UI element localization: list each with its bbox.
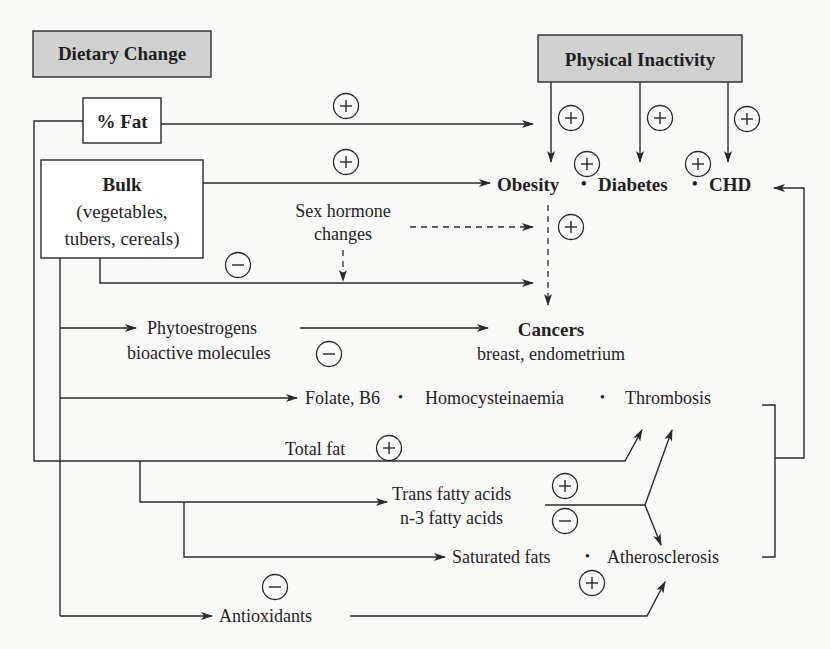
outcome-row: Obesity • Diabetes • CHD: [497, 174, 751, 195]
plus-icon: [559, 215, 584, 240]
sex-hormone-label-2: changes: [314, 224, 372, 244]
plus-icon: [648, 106, 673, 131]
physical-inactivity-label: Physical Inactivity: [565, 49, 716, 70]
percent-fat-label: % Fat: [96, 111, 148, 132]
antioxidants-label: Antioxidants: [219, 606, 312, 626]
antioxidants-to-atherosclerosis-arrow: [350, 582, 665, 616]
separator-dot: •: [692, 175, 698, 192]
trans-fatty-acids-label: Trans fatty acids: [392, 484, 511, 504]
minus-icon: [553, 509, 578, 534]
right-bracket: [762, 405, 775, 557]
minus-icon: [317, 342, 342, 367]
bulk-line-1: (vegetables,: [76, 201, 167, 223]
plus-icon: [580, 571, 605, 596]
plus-icon: [334, 150, 359, 175]
total-fat-label: Total fat: [285, 439, 345, 459]
homocysteinaemia-label: Homocysteinaemia: [425, 388, 564, 408]
diabetes-label: Diabetes: [598, 174, 668, 195]
plus-icon: [559, 106, 584, 131]
fork-to-thrombosis-arrow: [645, 430, 672, 505]
minus-icon: [263, 575, 288, 600]
plus-icon: [575, 152, 600, 177]
dietary-change-box: Dietary Change: [33, 31, 211, 77]
bulk-box: Bulk (vegetables, tubers, cereals): [41, 160, 203, 258]
phytoestrogens-label: Phytoestrogens: [147, 318, 257, 338]
separator-dot: •: [581, 175, 587, 192]
to-chd-arrow: [774, 188, 804, 458]
bioactive-molecules-label: bioactive molecules: [127, 343, 270, 363]
minus-icon: [226, 253, 251, 278]
obesity-label: Obesity: [497, 174, 560, 195]
n3-fatty-acids-label: n-3 fatty acids: [400, 508, 503, 528]
plus-icon: [334, 94, 359, 119]
separator-dot: •: [600, 390, 605, 405]
dietary-change-label: Dietary Change: [58, 43, 186, 64]
bulk-line-2: tubers, cereals): [65, 228, 180, 250]
cancers-detail: breast, endometrium: [477, 344, 625, 364]
plus-icon: [377, 436, 402, 461]
atherosclerosis-label: Atherosclerosis: [607, 547, 719, 567]
separator-dot: •: [585, 549, 590, 564]
bulk-title: Bulk: [102, 174, 142, 195]
bulk-to-cancer-arrow: [100, 258, 533, 283]
folate-row: Folate, B6 • Homocysteinaemia • Thrombos…: [305, 388, 711, 408]
plus-icon: [553, 474, 578, 499]
chd-label: CHD: [709, 174, 751, 195]
plus-icon: [735, 107, 760, 132]
sex-hormone-label-1: Sex hormone: [295, 201, 390, 221]
separator-dot: •: [398, 390, 403, 405]
to-trans-fatty-acids-arrow: [140, 461, 387, 502]
thrombosis-label: Thrombosis: [625, 388, 711, 408]
physical-inactivity-box: Physical Inactivity: [538, 35, 742, 82]
saturated-fats-label: Saturated fats: [452, 547, 550, 567]
folate-b6-label: Folate, B6: [305, 388, 380, 408]
percent-fat-box: % Fat: [83, 98, 161, 143]
plus-icon: [686, 152, 711, 177]
fork-to-atherosclerosis-arrow: [645, 505, 661, 545]
cancers-label: Cancers: [518, 319, 584, 340]
diet-disease-diagram: Dietary Change Physical Inactivity % Fat…: [0, 0, 830, 649]
